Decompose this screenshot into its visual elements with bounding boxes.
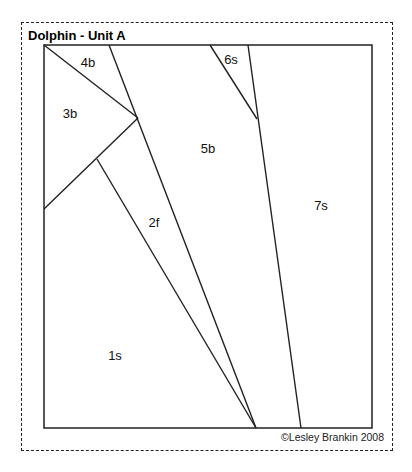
line-2f-left [97,159,256,428]
piece-label-7s: 7s [314,198,328,213]
line-7s-left [248,45,301,428]
line-3b-1s [44,118,138,209]
copyright-notice: ©Lesley Brankin 2008 [281,431,384,443]
paper-piecing-diagram [0,0,412,472]
piece-label-3b: 3b [63,106,77,121]
unit-border [44,45,372,428]
piece-label-2f: 2f [149,215,160,230]
piece-label-6s: 6s [224,52,238,67]
line-5b-left [109,45,256,428]
pattern-page: Dolphin - Unit A 1s 2f 3b 4b 5b 6s 7s ©L… [0,0,412,472]
piece-label-5b: 5b [201,141,215,156]
piece-label-4b: 4b [81,55,95,70]
seam-lines [44,45,301,428]
piece-label-1s: 1s [108,348,122,363]
